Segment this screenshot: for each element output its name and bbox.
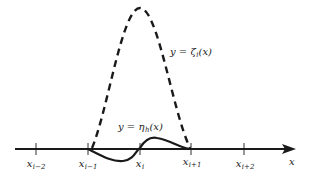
tick-label-x-i-plus-2: xi+2: [236, 159, 255, 171]
tick-label-sub: i+1: [189, 161, 202, 169]
tick-label-base: x: [136, 158, 142, 169]
eta-curve-label: y = ηh(x): [118, 122, 163, 134]
tick-label-sub: i−1: [85, 163, 98, 171]
tick-label-x-i-minus-1: xi−1: [79, 159, 98, 171]
x-axis-label: x: [289, 157, 295, 167]
zeta-label-text: y = ζ: [170, 46, 196, 57]
tick-label-base: x: [183, 156, 189, 167]
eta-label-arg: (x): [149, 121, 162, 132]
tick-label-x-i-minus-2: xi−2: [27, 159, 46, 171]
tick-label-base: x: [27, 158, 33, 169]
tick-label-x-i-plus-1: xi+1: [183, 157, 202, 169]
tick-label-sub: i+2: [242, 163, 255, 171]
zeta-curve-label: y = ζi(x): [170, 47, 212, 59]
tick-label-sub: i−2: [33, 163, 46, 171]
zeta-label-arg: (x): [199, 46, 212, 57]
tick-label-base: x: [79, 158, 85, 169]
tick-label-sub: i: [142, 163, 144, 171]
tick-label-x-i: xi: [136, 159, 144, 171]
tick-label-base: x: [236, 158, 242, 169]
eta-label-text: y = η: [118, 121, 144, 132]
finite-element-basis-diagram: xi−2 xi−1 xi xi+1 xi+2 x y = ζi(x) y = η…: [0, 0, 309, 179]
diagram-graphics: [0, 0, 309, 179]
